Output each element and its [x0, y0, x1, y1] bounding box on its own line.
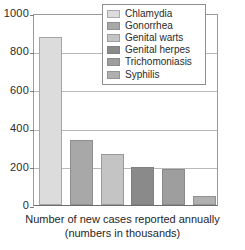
x-axis-caption: Number of new cases reported annually (n… [0, 212, 245, 240]
y-tick-label: 600 [10, 84, 29, 96]
y-tick-label: 1000 [4, 7, 29, 19]
legend-swatch [107, 34, 120, 42]
legend-item: Genital herpes [107, 44, 201, 56]
bar-chart-figure: 02004006008001000 ChlamydiaGonorrheaGeni… [0, 0, 245, 250]
bar [101, 154, 124, 205]
legend-swatch [107, 46, 120, 54]
legend-label: Trichomoniasis [125, 57, 192, 67]
legend-label: Gonorrhea [125, 21, 173, 31]
legend-swatch [107, 22, 120, 30]
y-tick-label: 400 [10, 122, 29, 134]
legend-label: Genital warts [125, 33, 183, 43]
legend-item: Chlamydia [107, 8, 201, 20]
legend-swatch [107, 58, 120, 66]
caption-line-2: (numbers in thousands) [0, 226, 245, 240]
legend-label: Syphilis [125, 70, 159, 80]
legend-label: Genital herpes [125, 45, 190, 55]
bar [193, 196, 216, 205]
y-tick-mark [30, 207, 34, 208]
caption-line-1: Number of new cases reported annually [0, 212, 245, 226]
y-tick-label: 200 [10, 161, 29, 173]
legend-item: Genital warts [107, 32, 201, 44]
legend-item: Gonorrhea [107, 20, 201, 32]
bar [39, 37, 62, 205]
y-tick-label: 800 [10, 45, 29, 57]
legend-label: Chlamydia [125, 9, 172, 19]
bar [70, 140, 93, 205]
legend-item: Trichomoniasis [107, 56, 201, 68]
legend-swatch [107, 10, 120, 18]
chart-legend: ChlamydiaGonorrheaGenital wartsGenital h… [102, 4, 206, 85]
legend-item: Syphilis [107, 68, 201, 80]
y-tick-label: 0 [23, 199, 29, 211]
legend-swatch [107, 71, 120, 79]
bar [131, 167, 154, 205]
bar [162, 169, 185, 205]
